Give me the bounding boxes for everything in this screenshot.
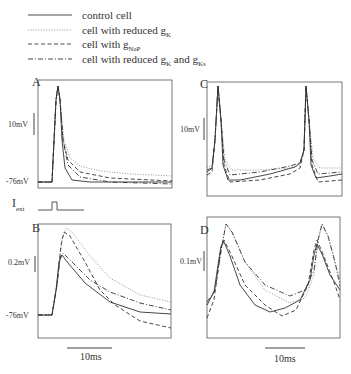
trace-b-gnap: [38, 232, 171, 328]
trace-d-reduced-gk: [207, 224, 340, 305]
panel-c-voltage-scale-label: 10mV: [180, 125, 200, 134]
panel-d-voltage-scale-label: 0.1mV: [180, 257, 202, 266]
panel-d-frame: [207, 217, 340, 338]
stimulus-label: Iext: [12, 196, 25, 213]
trace-b-control: [38, 255, 171, 315]
panel-b-voltage-scale-label: 0.2mV: [8, 258, 30, 267]
trace-a-reduced-gk-gks: [38, 86, 172, 184]
panel-d: D 0.1mV 10ms: [180, 217, 340, 364]
figure: control cell cell with reduced gK cell w…: [0, 0, 351, 374]
legend-label-reduced-gk: cell with reduced gK: [82, 24, 171, 39]
trace-d-gnap: [207, 240, 340, 318]
panel-b-frame: [38, 224, 171, 338]
trace-c-reduced-gk-gks: [207, 86, 342, 175]
stimulus-pulse: [38, 202, 84, 210]
panel-c: C 10mV: [180, 77, 342, 196]
trace-c-control: [207, 86, 342, 180]
trace-d-control: [207, 242, 340, 312]
stimulus: Iext: [12, 196, 84, 213]
trace-d-reduced-gk-gks: [207, 224, 340, 302]
panel-c-letter: C: [200, 77, 208, 91]
trace-a-reduced-gk: [38, 86, 172, 182]
panel-b-letter: B: [32, 221, 40, 235]
trace-c-reduced-gk: [207, 86, 342, 170]
panel-b-baseline-label: -76mV: [6, 311, 29, 320]
legend-label-gnap: cell with gNaP: [82, 38, 141, 53]
panel-b: B 0.2mV -76mV 10ms: [6, 221, 171, 362]
panel-b-time-scale-label: 10ms: [80, 351, 102, 362]
legend-label-control: control cell: [82, 9, 132, 21]
panel-a-frame: [38, 80, 172, 188]
legend-label-reduced-gk-gks: cell with reduced gK and gKs: [82, 53, 206, 68]
panel-d-time-scale-label: 10ms: [274, 353, 296, 364]
panel-a: A 10mV -76mV: [6, 75, 172, 188]
panel-a-letter: A: [32, 75, 41, 89]
legend: control cell cell with reduced gK cell w…: [28, 9, 206, 68]
trace-a-control: [38, 86, 172, 182]
panel-a-baseline-label: -76mV: [6, 177, 29, 186]
trace-a-gnap: [38, 86, 172, 182]
panel-a-voltage-scale-label: 10mV: [8, 120, 28, 129]
panel-d-letter: D: [200, 223, 209, 237]
trace-b-reduced-gk-gks: [38, 253, 171, 315]
